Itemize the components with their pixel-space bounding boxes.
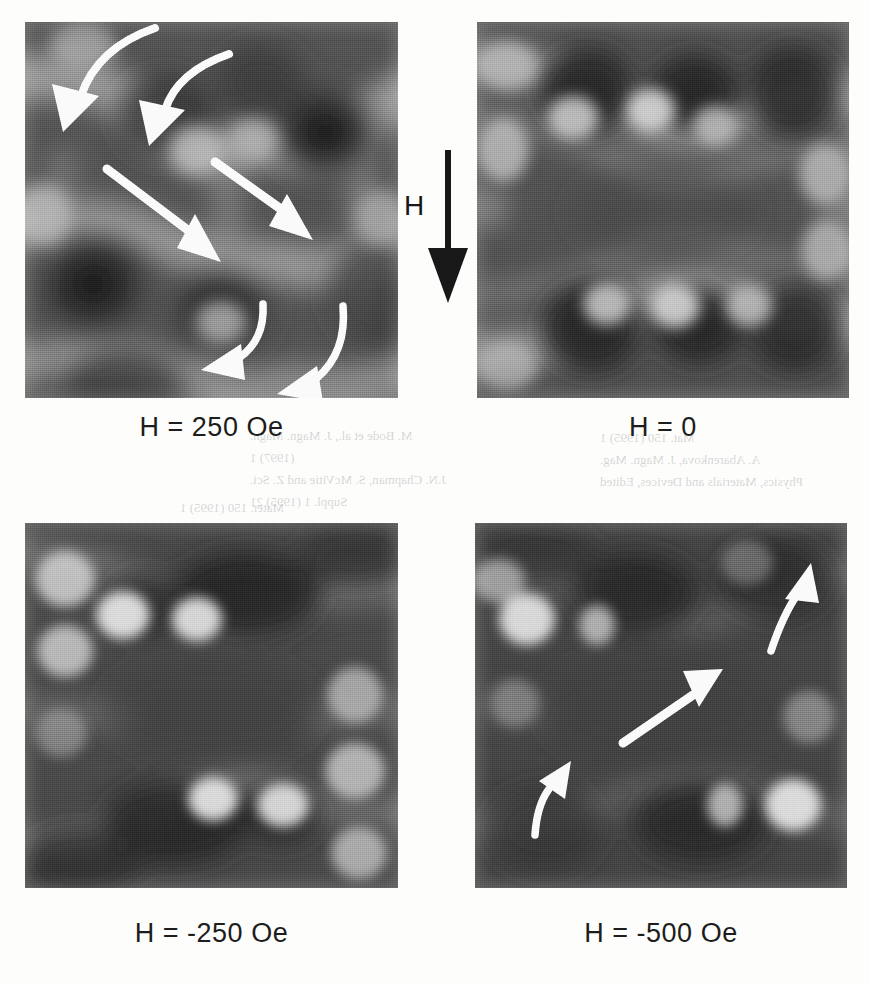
ghost-text-f: Mater. 150 (1995) 1 — [180, 500, 284, 516]
ghost-text-h: Physics, Materials and Devices, Edited — [600, 474, 803, 490]
mfm-panel-h-minus-500-oe — [475, 523, 847, 888]
applied-field-indicator: H — [404, 148, 484, 308]
mfm-image-h-minus-250-oe — [25, 523, 398, 888]
figure-root: Mat. 150 (1995) 1 A. Abarenkova, J. Magn… — [0, 0, 870, 984]
ghost-text-c: (1997) 1 — [250, 450, 294, 466]
mfm-panel-h-minus-250-oe — [25, 523, 398, 888]
ghost-text-e: Suppl. 1 (1995) 21 — [250, 494, 348, 510]
caption-panel-top-right: H = 0 — [477, 412, 849, 443]
ghost-text-d: J.N. Chapman, S. McVitie and Z. Sci. — [250, 472, 446, 488]
mfm-panel-h-0 — [477, 22, 849, 398]
mfm-image-h-0 — [477, 22, 849, 398]
mfm-panel-h-250-oe — [25, 22, 398, 398]
caption-panel-bottom-right: H = -500 Oe — [475, 918, 847, 949]
caption-panel-bottom-left: H = -250 Oe — [25, 918, 398, 949]
mfm-image-h-minus-500-oe — [475, 523, 847, 888]
caption-panel-top-left: H = 250 Oe — [25, 412, 398, 443]
field-label-h: H — [404, 190, 424, 222]
mfm-image-h-250-oe — [25, 22, 398, 398]
field-direction-arrow-icon — [404, 148, 484, 308]
ghost-text-g: A. Abarenkova, J. Magn. Mag. — [600, 452, 761, 468]
